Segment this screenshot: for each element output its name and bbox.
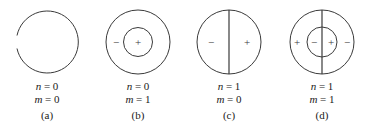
outer-circle-a [17,11,78,73]
sign-d-1: − [311,36,317,48]
sign-d-2: + [328,36,334,48]
mode-n-label-b: n = 0 [91,80,185,93]
mode-n-label-d: n = 1 [275,80,369,93]
sign-c-1: + [244,36,250,48]
sublabel-c: (c) [182,109,276,122]
diagram-b: − + [91,6,185,78]
sublabel-d: (d) [275,109,369,122]
sublabel-a: (a) [0,109,94,122]
sign-d-0: + [294,36,300,48]
sign-c-0: − [208,36,214,48]
mode-m-label-a: m = 0 [0,93,94,106]
panel-a: n = 0 m = 0 (a) [0,0,94,126]
panel-c: − + n = 1 m = 0 (c) [182,0,276,126]
diagram-d: + − + − [275,6,369,78]
sign-b-0: − [113,36,119,48]
panel-b: − + n = 0 m = 1 (b) [91,0,185,126]
sign-b-1: + [135,36,141,48]
diagram-c: − + [182,6,276,78]
sublabel-b: (b) [91,109,185,122]
mode-m-label-b: m = 1 [91,93,185,106]
mode-m-label-d: m = 1 [275,93,369,106]
vibration-mode-figure: n = 0 m = 0 (a) − + n = 0 m = 1 (b) − + [0,0,376,126]
mode-m-label-c: m = 0 [182,93,276,106]
panel-d: + − + − n = 1 m = 1 (d) [275,0,369,126]
mode-n-label-c: n = 1 [182,80,276,93]
diagram-a [0,6,94,78]
mode-n-label-a: n = 0 [0,80,94,93]
sign-d-3: − [344,36,350,48]
